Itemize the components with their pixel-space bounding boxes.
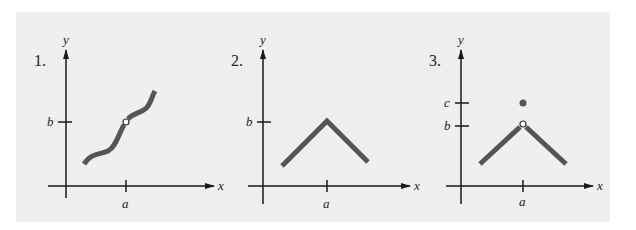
graph-number: 1. <box>34 52 46 69</box>
y-axis-label: y <box>258 32 266 47</box>
curve <box>282 121 368 166</box>
limits-figure: 1. y x b a 2. y x b a 3. y x c b a <box>0 0 636 230</box>
y-tick-label-c: c <box>444 95 450 110</box>
x-axis-label: x <box>596 178 603 193</box>
y-tick-label-b: b <box>444 118 451 133</box>
graph-3: 3. y x c b a <box>429 32 603 209</box>
y-tick-label-b: b <box>246 114 253 129</box>
graph-number: 2. <box>231 52 243 69</box>
y-tick-label-b: b <box>47 114 54 129</box>
curve <box>84 91 155 164</box>
x-axis-label: x <box>217 178 224 193</box>
graph-number: 3. <box>429 52 441 69</box>
filled-point <box>520 100 527 107</box>
x-tick-label-a: a <box>122 196 129 211</box>
graph-2: 2. y x b a <box>231 32 420 211</box>
open-point <box>520 121 526 127</box>
y-axis-label: y <box>456 32 464 47</box>
curve <box>480 127 566 164</box>
open-point <box>123 119 129 125</box>
x-tick-label-a: a <box>519 194 526 209</box>
x-tick-label-a: a <box>323 196 330 211</box>
graph-1: 1. y x b a <box>34 32 224 211</box>
x-axis-label: x <box>413 178 420 193</box>
y-axis-label: y <box>61 32 69 47</box>
